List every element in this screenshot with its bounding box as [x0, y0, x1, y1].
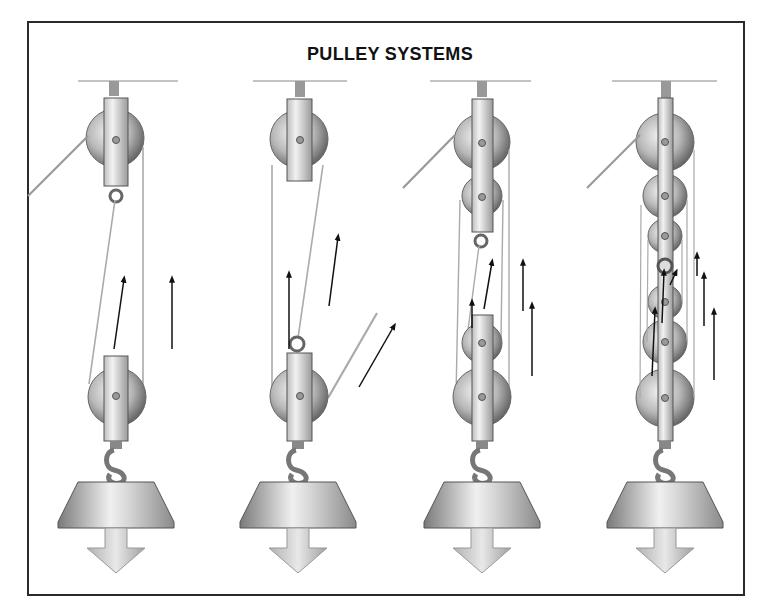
- rope: [640, 205, 641, 398]
- fixed-block: [472, 99, 493, 232]
- pulley-system-3: [403, 81, 532, 441]
- down-arrow-icon: [87, 528, 145, 573]
- down-arrow-icon: [453, 528, 511, 573]
- hook-shank: [659, 441, 671, 449]
- force-arrow: [114, 279, 124, 349]
- axle-pin: [479, 340, 486, 347]
- pull-rope: [587, 135, 640, 188]
- pulley-system-2: [253, 81, 394, 441]
- axle-pin: [662, 395, 669, 402]
- weight: [424, 482, 540, 528]
- eye-ring: [290, 337, 304, 351]
- moving-block: [472, 315, 493, 441]
- weight: [240, 482, 356, 528]
- axle-pin: [662, 339, 669, 346]
- hook-shank: [292, 441, 304, 449]
- hook-icon: [473, 450, 491, 483]
- force-arrow: [329, 237, 338, 306]
- ceiling-mount: [661, 81, 671, 99]
- axle-pin: [662, 139, 669, 146]
- axle-pin: [297, 137, 304, 144]
- rope: [501, 200, 503, 339]
- hook-icon: [107, 450, 125, 483]
- load-3: [424, 441, 540, 573]
- weight: [607, 482, 723, 528]
- load-1: [58, 441, 174, 573]
- rope: [456, 200, 460, 396]
- pulley-system-1: [28, 81, 178, 441]
- ceiling-mount: [477, 81, 487, 97]
- pull-rope: [328, 313, 377, 398]
- weight: [58, 482, 174, 528]
- pull-rope: [403, 135, 455, 188]
- eye-ring: [475, 235, 487, 247]
- eye-ring: [658, 259, 672, 273]
- axle-pin: [479, 194, 486, 201]
- hook-icon: [656, 450, 674, 483]
- down-arrow-icon: [269, 528, 327, 573]
- axle-pin: [662, 233, 669, 240]
- hook-shank: [110, 441, 122, 449]
- rope: [298, 165, 323, 338]
- pull-rope: [28, 136, 88, 196]
- ceiling-mount: [109, 81, 119, 96]
- load-2: [240, 441, 356, 573]
- hook-shank: [476, 441, 488, 449]
- force-arrow: [484, 262, 492, 309]
- axle-pin: [113, 393, 120, 400]
- axle-pin: [479, 394, 486, 401]
- axle-pin: [479, 140, 486, 147]
- down-arrow-icon: [636, 528, 694, 573]
- rope: [647, 240, 648, 342]
- ceiling-mount: [295, 81, 305, 97]
- axle-pin: [662, 193, 669, 200]
- pulley-illustration: [0, 0, 776, 614]
- axle-pin: [297, 393, 304, 400]
- pulley-system-4: [587, 81, 717, 441]
- axle-pin: [113, 137, 120, 144]
- eye-ring: [110, 190, 122, 202]
- hook-icon: [289, 450, 307, 483]
- load-4: [607, 441, 723, 573]
